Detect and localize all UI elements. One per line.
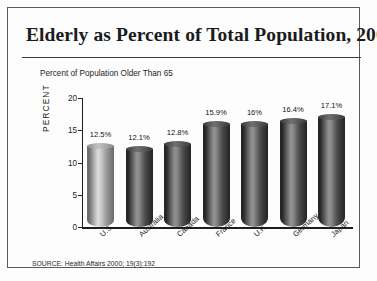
y-tick-mark <box>78 98 82 99</box>
bar-cap <box>318 114 345 120</box>
y-tick-label: 15 <box>68 126 77 135</box>
y-tick-mark <box>78 130 82 131</box>
title-divider <box>22 57 361 58</box>
y-tick-label: 10 <box>68 158 77 167</box>
y-axis-line <box>82 98 83 228</box>
bar: 16%U.K. <box>241 124 268 227</box>
y-tick-mark <box>78 163 82 164</box>
source-note: SOURCE: Health Affairs 2000; 19(3):192 <box>32 260 155 267</box>
chart-frame: Elderly as Percent of Total Population, … <box>7 7 360 268</box>
y-tick-label: 5 <box>72 190 77 199</box>
bar-value-label: 12.1% <box>128 133 150 142</box>
bar-body <box>203 124 230 227</box>
bar-value-label: 16.4% <box>282 105 304 114</box>
bar-value-label: 17.1% <box>321 101 343 110</box>
y-tick-label: 0 <box>72 223 77 232</box>
bar-body <box>318 117 345 227</box>
bar-body <box>280 121 307 227</box>
y-tick-label: 20 <box>68 94 77 103</box>
bar-value-label: 12.8% <box>167 128 189 137</box>
y-axis-caption: PERCENT <box>41 118 51 132</box>
plot-area: 05101520 12.5%U.S.12.1%Australia12.8%Can… <box>82 98 353 228</box>
bar-value-label: 12.5% <box>90 130 112 139</box>
y-tick-mark <box>78 227 82 228</box>
bar: 17.1%Japan <box>318 117 345 227</box>
bar-body <box>164 144 191 227</box>
chart-subtitle: Percent of Population Older Than 65 <box>40 69 173 78</box>
bar-value-label: 16% <box>247 108 262 117</box>
bar-cap <box>241 121 268 127</box>
bar-body <box>241 124 268 227</box>
page-title: Elderly as Percent of Total Population, … <box>26 24 356 46</box>
bar-body <box>126 149 153 227</box>
bar-value-label: 15.9% <box>205 108 227 117</box>
bar: 12.5%U.S. <box>87 146 114 227</box>
bar: 12.1%Australia <box>126 149 153 227</box>
chart-page: Elderly as Percent of Total Population, … <box>0 0 377 281</box>
bar-cap <box>126 146 153 152</box>
bar-body <box>87 146 114 227</box>
bar: 12.8%Canada <box>164 144 191 227</box>
bar: 15.9%France <box>203 124 230 227</box>
bar: 16.4%Germany <box>280 121 307 227</box>
y-tick-mark <box>78 195 82 196</box>
